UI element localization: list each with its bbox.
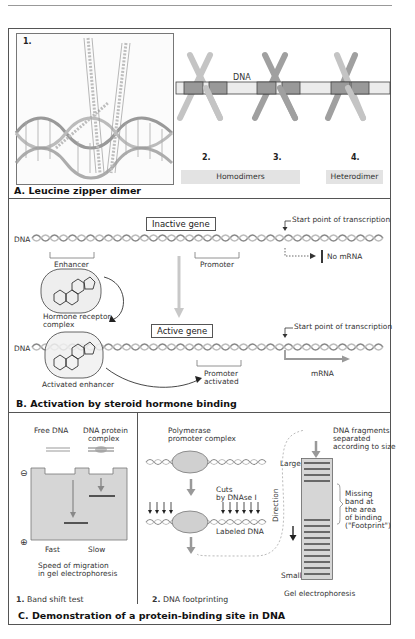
start-point-bottom-label: Start point of transcription — [294, 323, 392, 332]
speed-of-migration-label-2: in gel electrophoresis — [38, 570, 117, 579]
inactive-gene-label: Inactive gene — [146, 217, 216, 231]
active-gene-label: Active gene — [151, 324, 213, 338]
section-b-divider — [8, 412, 391, 413]
small-label: Small — [281, 572, 302, 581]
slow-label: Slow — [88, 546, 105, 555]
page-header-rule — [8, 5, 392, 6]
free-dna-and-complex-icons — [44, 445, 134, 455]
footprint-gel — [301, 458, 333, 580]
section-a-title: A. Leucine zipper dimer — [14, 185, 141, 196]
dna-label-top: DNA — [14, 236, 30, 245]
heterodimer-label: Heterodimer — [326, 170, 383, 184]
band-shift-text: Band shift test — [27, 595, 84, 604]
fast-label: Fast — [45, 546, 60, 555]
promoter-activated-label-2: activated — [204, 378, 239, 387]
start-point-top-label: Start point of transcription — [292, 216, 390, 225]
hormone-receptor-complex-icon — [40, 268, 108, 316]
large-label: Large — [280, 460, 301, 469]
dna-label-bottom: DNA — [14, 345, 30, 354]
missing-band-bracket — [336, 483, 344, 525]
activated-enhancer-icon — [44, 331, 106, 381]
section-c-panel-divider — [137, 412, 138, 604]
enhancer-bracket — [49, 252, 95, 260]
dimer-number-2: 2. — [202, 153, 211, 162]
mrna-arrow — [284, 350, 354, 370]
band-shift-number: 1. — [16, 595, 24, 604]
enhancer-to-promoter-arrow — [104, 366, 204, 396]
promoter-label: Promoter — [200, 261, 234, 270]
dimer-number-4: 4. — [351, 153, 360, 162]
section-c-title: C. Demonstration of a protein-binding si… — [18, 610, 285, 621]
no-mrna-arrow — [284, 248, 324, 264]
start-point-top-marker — [282, 218, 294, 232]
mrna-label: mRNA — [311, 370, 334, 379]
positive-electrode-icon: ⊕ — [20, 537, 28, 547]
promoter-bracket-bottom — [196, 360, 242, 368]
missing-band-label-5: ("Footprint") — [345, 522, 391, 531]
direction-arrow-icon — [289, 526, 297, 542]
band-shift-gel — [31, 468, 127, 540]
dashed-path-to-gel — [195, 428, 315, 558]
dna-protein-complex-label-2: complex — [88, 435, 119, 444]
activation-arrow — [172, 256, 186, 320]
direction-label: Direction — [272, 489, 281, 522]
free-dna-label: Free DNA — [34, 427, 68, 436]
promoter-bracket-top — [194, 252, 240, 260]
hormone-receptor-complex-label-2: complex — [43, 321, 74, 330]
leucine-zipper-dna-illustration — [16, 33, 172, 183]
footprinting-text: DNA footprinting — [163, 595, 228, 604]
section-a-divider — [8, 198, 391, 199]
dimer-number-3: 3. — [273, 153, 282, 162]
section-b-title: B. Activation by steroid hormone binding — [16, 398, 237, 409]
fragments-label-3: according to size — [333, 443, 396, 452]
homodimers-label: Homodimers — [181, 170, 300, 184]
no-mrna-label: No mRNA — [327, 253, 362, 262]
dna-helix-inactive — [32, 232, 387, 244]
dimers-on-dna-illustration — [170, 50, 392, 120]
section-c-caption-divider — [8, 604, 391, 605]
negative-electrode-icon: ⊖ — [20, 468, 28, 478]
dna-label-a: DNA — [233, 73, 251, 82]
fragment-load-arrow — [310, 441, 322, 459]
start-point-bottom-marker — [282, 325, 296, 339]
gel-electrophoresis-label: Gel electrophoresis — [284, 590, 355, 599]
footprinting-number: 2. — [152, 595, 160, 604]
